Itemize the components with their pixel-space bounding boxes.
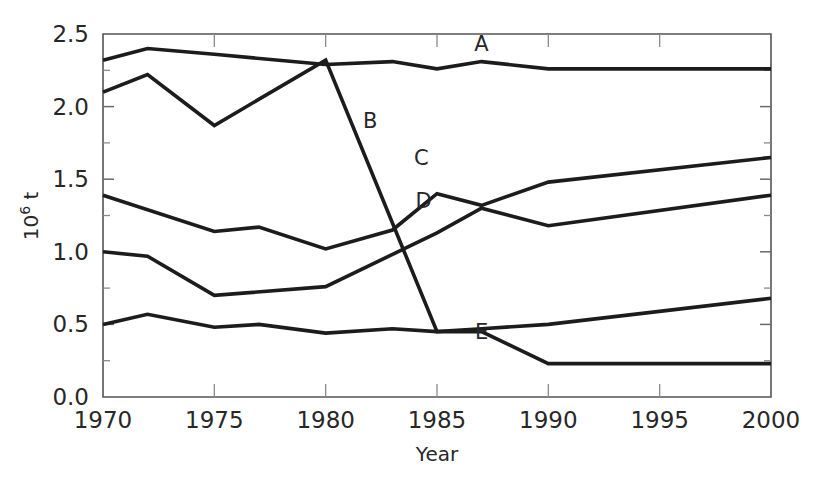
series-label-a: A: [474, 32, 489, 56]
series-labels-group: ABCDE: [363, 32, 489, 343]
y-axis-title-base: 10: [19, 215, 43, 240]
x-axis-ticks: [214, 34, 659, 397]
x-tick-label: 1990: [519, 407, 578, 433]
x-tick-label: 1995: [630, 407, 689, 433]
y-tick-label: 1.0: [52, 239, 89, 265]
y-axis-ticks: [103, 70, 771, 360]
y-axis-tick-labels: 0.00.51.01.52.02.5: [52, 21, 89, 410]
y-tick-label: 2.0: [52, 94, 89, 120]
plot-frame: [103, 34, 771, 397]
y-tick-label: 0.5: [52, 311, 89, 337]
x-tick-label: 1985: [408, 407, 467, 433]
series-label-c: C: [414, 146, 429, 170]
x-tick-label: 1970: [74, 407, 133, 433]
x-axis-title: Year: [415, 442, 459, 466]
y-tick-label: 1.5: [52, 166, 89, 192]
data-series-group: [103, 49, 771, 364]
data-line-d: [103, 195, 771, 295]
y-axis-title-unit: t: [19, 192, 43, 206]
x-axis-tick-labels: 1970197519801985199019952000: [74, 407, 801, 433]
y-tick-label: 2.5: [52, 21, 89, 47]
line-chart: 0.00.51.01.52.02.5 197019751980198519901…: [0, 0, 823, 480]
x-tick-label: 1980: [296, 407, 355, 433]
y-axis-title: 106 t: [17, 192, 43, 241]
x-tick-label: 1975: [185, 407, 244, 433]
chart-canvas: 0.00.51.01.52.02.5 197019751980198519901…: [0, 0, 823, 480]
series-label-b: B: [363, 109, 377, 133]
series-label-e: E: [475, 320, 488, 344]
series-label-d: D: [416, 189, 432, 213]
y-axis-title-exponent: 6: [17, 206, 33, 215]
data-line-a: [103, 49, 771, 69]
data-line-e: [103, 314, 771, 363]
y-axis-title-text: 106 t: [17, 192, 43, 241]
x-tick-label: 2000: [742, 407, 801, 433]
data-line-c: [103, 157, 771, 248]
